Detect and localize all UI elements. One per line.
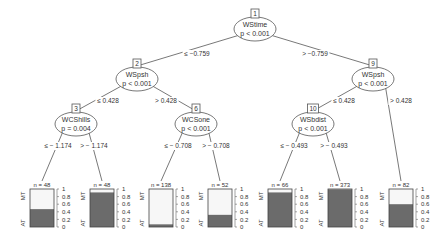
edge-split-label: ≤ −0.759 [184,50,210,57]
terminal-node-4: n = 48MTAT00.20.40.60.81 [20,182,71,230]
node-variable: WSpsh [126,71,149,79]
axis-tick-label: 0.2 [300,217,309,223]
axis-tick-label: 1 [421,186,425,192]
edge-split-label: > −0.759 [302,50,328,57]
at-bar [30,209,54,227]
tree-edge [88,129,102,181]
axis-tick-label: 0 [122,224,126,230]
axis-tick-label: 0.2 [122,217,131,223]
inner-node-2: 2WSpshp < 0.001 [116,59,158,91]
tree-edge [208,129,220,181]
terminal-node-8: n = 52MTAT00.20.40.60.81 [198,182,249,230]
edge-split-label: > − 1.174 [80,142,108,149]
at-label: AT [20,219,26,227]
at-bar [208,215,232,227]
axis-tick-label: 0.6 [122,201,131,207]
axis-tick-label: 0.2 [240,217,249,223]
edge-split-label: ≤ − 0.708 [164,142,192,149]
node-id: 1 [253,10,257,17]
terminal-node-11: n = 66MTAT00.20.40.60.81 [258,182,309,230]
axis-tick-label: 1 [181,186,185,192]
node-n-label: n = 52 [212,182,230,188]
axis-tick-label: 0 [360,224,364,230]
mt-label: MT [318,191,324,200]
at-label: AT [258,219,264,227]
terminal-node-12: n = 373MTAT00.20.40.60.81 [318,182,369,230]
node-variable: WSbdist [300,116,326,123]
node-id: 3 [74,105,78,112]
mt-label: MT [139,191,145,200]
node-pvalue: p < 0.001 [122,80,151,88]
inner-node-6: 6WCSonep < 0.001 [175,104,217,136]
axis-tick-label: 0.2 [360,217,369,223]
mt-bar [149,189,173,227]
node-variable: WSpsh [362,71,385,79]
tree-edge [280,129,301,181]
decision-tree: ≤ −0.759> −0.759≤ 0.428> 0.428≤ − 1.174>… [0,0,444,241]
node-n-label: n = 138 [151,182,172,188]
edge-split-label: > 0.428 [390,97,412,104]
axis-tick-label: 0.8 [240,194,249,200]
mt-label: MT [80,191,86,200]
edge-split-label: ≤ − 0.493 [280,142,308,149]
axis-tick-label: 0.4 [122,209,131,215]
mt-label: MT [379,191,385,200]
node-n-label: n = 373 [330,182,351,188]
axis-tick-label: 0.6 [181,201,190,207]
terminal-node-7: n = 138MTAT00.20.40.60.81 [139,182,190,230]
axis-tick-label: 0.4 [240,209,249,215]
edge-split-label: > 0.428 [155,97,177,104]
node-id: 10 [309,105,317,112]
axis-tick-label: 0 [421,224,425,230]
axis-tick-label: 0.4 [62,209,71,215]
at-bar [389,204,413,227]
axis-tick-label: 0.6 [240,201,249,207]
axis-tick-label: 0 [181,224,185,230]
edge-split-label: > − 0.708 [202,142,230,149]
axis-tick-label: 0.4 [181,209,190,215]
axis-tick-label: 0.8 [181,194,190,200]
node-n-label: n = 82 [393,182,411,188]
tree-edge [325,129,340,181]
axis-tick-label: 0.6 [62,201,71,207]
node-id: 6 [194,105,198,112]
tree-edge [42,129,64,181]
node-pvalue: p < 0.001 [240,30,269,38]
axis-tick-label: 0.6 [421,201,430,207]
mt-label: MT [198,191,204,200]
axis-tick-label: 1 [122,186,126,192]
inner-node-1: 1WStimep < 0.001 [234,9,276,41]
edge-split-label: ≤ 0.428 [333,97,355,104]
axis-tick-label: 0.4 [300,209,309,215]
inner-node-3: 3WCShillsp = 0.004 [55,104,97,136]
at-bar [268,192,292,227]
node-id: 9 [371,60,375,67]
at-label: AT [80,219,86,227]
at-label: AT [139,219,145,227]
axis-tick-label: 0.8 [421,194,430,200]
axis-tick-label: 0.8 [300,194,309,200]
axis-tick-label: 0.4 [421,209,430,215]
node-n-label: n = 48 [34,182,52,188]
node-variable: WCShills [62,116,91,123]
axis-tick-label: 0 [300,224,304,230]
node-n-label: n = 48 [94,182,112,188]
node-n-label: n = 66 [272,182,290,188]
tree-inner-nodes: 1WStimep < 0.0012WSpshp < 0.0013WCShills… [55,9,394,136]
node-pvalue: p < 0.001 [358,80,387,88]
axis-tick-label: 0 [62,224,66,230]
axis-tick-label: 0.6 [300,201,309,207]
axis-tick-label: 1 [62,186,66,192]
edge-split-label: ≤ − 1.174 [44,142,72,149]
axis-tick-label: 0.2 [62,217,71,223]
axis-tick-label: 0.8 [360,194,369,200]
inner-node-9: 9WSpshp < 0.001 [352,59,394,91]
axis-tick-label: 0.8 [62,194,71,200]
tree-terminal-nodes: n = 48MTAT00.20.40.60.81n = 48MTAT00.20.… [20,182,430,230]
node-pvalue: p < 0.001 [181,125,210,133]
at-label: AT [379,219,385,227]
axis-tick-label: 1 [240,186,244,192]
at-label: AT [198,219,204,227]
terminal-node-13: n = 82MTAT00.20.40.60.81 [379,182,430,230]
axis-tick-label: 0.4 [360,209,369,215]
